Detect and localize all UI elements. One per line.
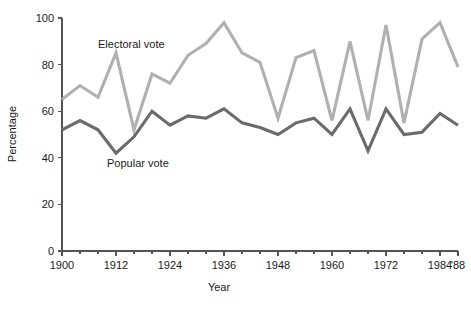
x-tick-label: 1960 (320, 259, 344, 271)
x-tick-label: 1972 (374, 259, 398, 271)
series-label-electoral-vote: Electoral vote (98, 38, 165, 50)
y-tick-label: 100 (36, 12, 54, 24)
y-tick-label: 80 (42, 59, 54, 71)
x-tick-label: 1912 (104, 259, 128, 271)
x-tick-label: 1924 (158, 259, 182, 271)
y-tick-label: 40 (42, 152, 54, 164)
tick-marks (58, 18, 458, 256)
x-axis-tick-labels: 19001912192419361948196019721984'88 (50, 259, 465, 271)
chart-page: 020406080100 190019121924193619481960197… (0, 0, 471, 310)
y-tick-label: 20 (42, 198, 54, 210)
series-annotations: Electoral votePopular vote (98, 38, 169, 169)
y-tick-label: 60 (42, 105, 54, 117)
x-tick-label: 1984 (428, 259, 452, 271)
line-chart: 020406080100 190019121924193619481960197… (0, 0, 471, 310)
x-tick-label: 1900 (50, 259, 74, 271)
x-tick-label: '88 (451, 259, 465, 271)
axes (62, 18, 458, 251)
y-tick-label: 0 (48, 245, 54, 257)
x-tick-label: 1936 (212, 259, 236, 271)
x-axis-title: Year (208, 281, 231, 293)
y-axis-title: Percentage (6, 106, 18, 162)
series-label-popular-vote: Popular vote (107, 157, 169, 169)
x-tick-label: 1948 (266, 259, 290, 271)
y-axis-tick-labels: 020406080100 (36, 12, 54, 257)
series-line-popular-vote (62, 109, 458, 153)
